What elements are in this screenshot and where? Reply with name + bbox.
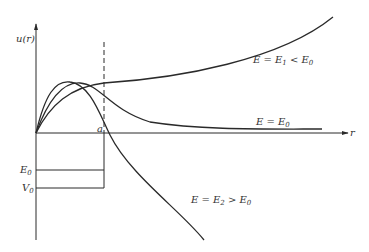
y-axis-label: u(r) bbox=[16, 33, 35, 44]
curve-e0-label: E = E0 bbox=[255, 116, 290, 129]
x-axis-label: r bbox=[350, 127, 356, 138]
wavefunction-diagram: u(r) r a E0 V0 E = E1 < E0 E = E0 E = E2… bbox=[0, 0, 369, 252]
well-edge-label: a bbox=[97, 123, 103, 134]
v0-level-label: V0 bbox=[22, 182, 34, 195]
curve-e2 bbox=[36, 82, 204, 240]
curve-e1 bbox=[36, 17, 333, 133]
e0-level-label: E0 bbox=[19, 164, 32, 177]
curve-e2-label: E = E2 > E0 bbox=[190, 194, 252, 207]
curve-e1-label: E = E1 < E0 bbox=[252, 54, 314, 67]
